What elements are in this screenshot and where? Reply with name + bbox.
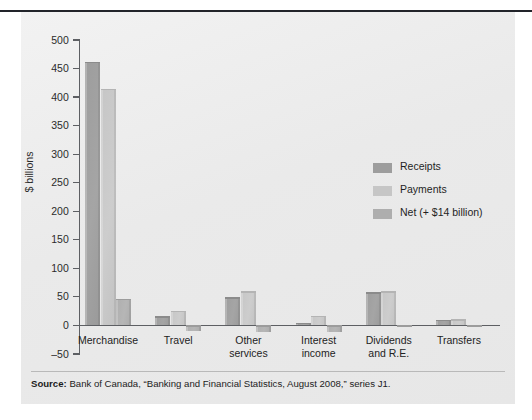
bar-payments-1[interactable] — [171, 311, 186, 326]
bar-highlight — [85, 62, 87, 326]
bar-cap — [311, 316, 326, 318]
legend-swatch-payments — [373, 186, 392, 196]
bar-highlight — [381, 291, 383, 325]
bar-payments-4[interactable] — [381, 291, 396, 325]
chart-legend: ReceiptsPaymentsNet (+ $14 billion) — [373, 160, 513, 229]
bar-cap — [397, 325, 412, 327]
bar-receipts-5[interactable] — [436, 320, 451, 326]
y-tick-label: 400 — [21, 91, 69, 103]
y-tick-mark — [73, 154, 80, 155]
y-tick-mark — [73, 182, 80, 183]
bar-cap — [101, 89, 116, 91]
bar-shadow — [394, 291, 396, 325]
legend-item-label: Payments — [400, 183, 447, 195]
legend-item[interactable]: Payments — [373, 183, 513, 206]
figure-container: 500450400350300250200150100500–50 Mercha… — [0, 0, 532, 420]
bar-receipts-2[interactable] — [225, 297, 240, 325]
bar-receipts-3[interactable] — [296, 323, 311, 326]
y-tick-label: 0 — [21, 319, 69, 331]
bar-cap — [116, 299, 131, 301]
bar-payments-2[interactable] — [241, 291, 256, 325]
bar-shadow — [129, 299, 131, 326]
legend-swatch-net — [373, 209, 392, 219]
y-tick-label: 450 — [21, 62, 69, 74]
bar-cap — [366, 292, 381, 294]
y-axis-line — [79, 40, 80, 354]
bar-net-4[interactable] — [397, 325, 412, 326]
bar-cap — [155, 316, 170, 318]
source-citation: Bank of Canada, “Banking and Financial S… — [67, 378, 391, 389]
chart-panel: 500450400350300250200150100500–50 Mercha… — [21, 12, 515, 404]
bar-net-2[interactable] — [256, 325, 271, 331]
bar-net-0[interactable] — [116, 299, 131, 326]
bar-highlight — [366, 292, 368, 325]
bar-highlight — [116, 299, 118, 326]
bar-cap — [186, 325, 201, 327]
x-category-label-line: Transfers — [414, 334, 504, 347]
legend-item-label: Receipts — [400, 160, 441, 172]
legend-item[interactable]: Receipts — [373, 160, 513, 183]
y-tick-mark — [73, 325, 80, 326]
bar-cap — [436, 320, 451, 322]
bar-cap — [241, 291, 256, 293]
bar-payments-3[interactable] — [311, 316, 326, 326]
y-tick-mark — [73, 239, 80, 240]
bar-payments-5[interactable] — [451, 319, 466, 325]
y-tick-mark — [73, 211, 80, 212]
bar-net-3[interactable] — [327, 325, 342, 332]
bar-cap — [451, 319, 466, 321]
y-tick-label-text: 400 — [23, 91, 69, 103]
y-tick-mark — [73, 296, 80, 297]
y-tick-mark — [73, 39, 80, 40]
y-tick-label: 50 — [21, 290, 69, 302]
bar-net-5[interactable] — [467, 325, 482, 326]
bar-cap — [225, 297, 240, 299]
bar-highlight — [241, 291, 243, 325]
y-tick-label-text: 50 — [23, 290, 69, 302]
bar-shadow — [114, 89, 116, 326]
y-tick-label-text: 500 — [23, 34, 69, 46]
bar-highlight — [101, 89, 103, 326]
y-tick-label-text: 450 — [23, 62, 69, 74]
bar-cap — [256, 325, 271, 327]
x-category-label-line: and R.E. — [344, 347, 434, 360]
bar-receipts-1[interactable] — [155, 316, 170, 325]
y-tick-label: –50 — [21, 348, 69, 360]
bar-receipts-4[interactable] — [366, 292, 381, 325]
bar-payments-0[interactable] — [101, 89, 116, 326]
bar-shadow — [254, 291, 256, 325]
bar-highlight — [171, 311, 173, 326]
y-axis-title: $ billions — [23, 102, 35, 242]
y-tick-label-text: –50 — [23, 348, 69, 360]
legend-item[interactable]: Net (+ $14 billion) — [373, 206, 513, 229]
y-tick-label-text: 0 — [23, 319, 69, 331]
source-note: Source: Bank of Canada, “Banking and Fin… — [31, 378, 505, 390]
y-tick-mark — [73, 268, 80, 269]
y-tick-label: 100 — [21, 262, 69, 274]
y-tick-mark — [73, 96, 80, 97]
y-tick-label: 500 — [21, 34, 69, 46]
legend-item-label: Net (+ $14 billion) — [400, 206, 483, 218]
legend-swatch-receipts — [373, 163, 392, 173]
bar-cap — [327, 325, 342, 327]
bar-shadow — [184, 311, 186, 326]
bar-cap — [467, 325, 482, 327]
bar-cap — [296, 323, 311, 325]
y-tick-mark — [73, 68, 80, 69]
source-label: Source: — [31, 378, 67, 389]
x-category-label: Transfers — [414, 334, 504, 347]
bar-highlight — [225, 297, 227, 325]
y-tick-mark — [73, 125, 80, 126]
bar-cap — [85, 62, 100, 64]
y-tick-mark — [73, 353, 80, 354]
bar-receipts-0[interactable] — [85, 62, 100, 326]
bar-net-1[interactable] — [186, 325, 201, 331]
footer-divider — [31, 371, 505, 372]
bar-cap — [381, 291, 396, 293]
bar-cap — [171, 311, 186, 313]
y-tick-label-text: 100 — [23, 262, 69, 274]
